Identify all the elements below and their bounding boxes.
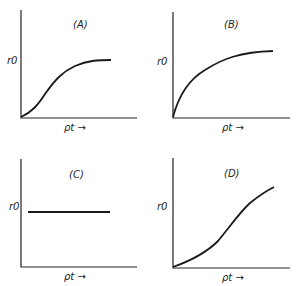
panel-b-ylabel: r0	[157, 56, 167, 67]
panel-d: (D) r0 ρt →	[157, 158, 290, 283]
panel-c-title: (C)	[69, 169, 84, 180]
panel-d-xlabel: ρt →	[222, 272, 244, 283]
panel-a-xlabel: ρt →	[64, 122, 86, 133]
panel-b-title: (B)	[224, 19, 239, 30]
panel-a-curve	[21, 60, 111, 117]
figure: (A) r0 ρt → (B) r0 ρt → (C) r0 ρt → (D) …	[0, 0, 298, 286]
panel-b-curve	[173, 51, 273, 117]
panel-c-xlabel: ρt →	[64, 271, 86, 282]
panel-c-ylabel: r0	[9, 201, 19, 212]
panel-b: (B) r0 ρt →	[157, 12, 290, 133]
panel-a-title: (A)	[73, 19, 88, 30]
panel-d-curve	[173, 187, 274, 267]
panel-c: (C) r0 ρt →	[9, 159, 137, 282]
panel-d-title: (D)	[224, 168, 240, 179]
panel-a-ylabel: r0	[7, 55, 17, 66]
panel-d-ylabel: r0	[157, 201, 167, 212]
panel-b-xlabel: ρt →	[222, 122, 244, 133]
panel-a: (A) r0 ρt →	[7, 10, 137, 133]
